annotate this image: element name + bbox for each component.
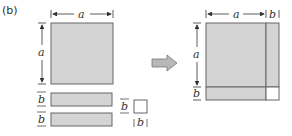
left-square-side-label: a bbox=[38, 46, 45, 59]
right-square-group: a b a b bbox=[193, 8, 279, 100]
ab-bar-2 bbox=[51, 113, 112, 126]
right-ab-vertical-bar bbox=[266, 23, 279, 87]
right-left-b-label: b bbox=[193, 87, 200, 100]
right-b-square bbox=[266, 87, 279, 100]
ab-bar-1 bbox=[51, 93, 112, 106]
right-top-a-label: a bbox=[233, 8, 240, 21]
panel-label: (b) bbox=[2, 4, 18, 17]
right-left-a-label: a bbox=[193, 48, 200, 61]
diagram-canvas: (b) a a b b b b bbox=[0, 0, 292, 136]
small-square-left-label: b bbox=[121, 100, 128, 113]
right-ab-horizontal-bar bbox=[206, 87, 266, 100]
bar-2-label: b bbox=[38, 113, 45, 126]
right-a-square bbox=[206, 23, 266, 87]
b-square bbox=[134, 100, 147, 113]
bar-2-group: b bbox=[37, 112, 112, 126]
right-top-b-label: b bbox=[269, 8, 276, 21]
bar-1-group: b bbox=[37, 92, 112, 106]
small-square-bottom-label: b bbox=[137, 116, 144, 129]
transform-arrow-icon bbox=[152, 55, 177, 71]
left-square-top-label: a bbox=[78, 8, 85, 21]
small-square-group: b b bbox=[120, 99, 147, 129]
left-square-group: a a bbox=[38, 8, 113, 84]
a-square bbox=[51, 23, 113, 84]
bar-1-label: b bbox=[38, 93, 45, 106]
